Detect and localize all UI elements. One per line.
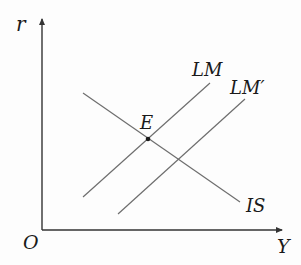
is-curve [83, 93, 240, 202]
equilibrium-point-e [146, 137, 151, 142]
lm-label: LM [191, 59, 223, 80]
x-axis-label: Y [277, 235, 292, 257]
lm-prime-label: LM′ [229, 77, 264, 98]
is-lm-diagram: r O Y LM LM′ E IS [0, 0, 301, 265]
is-label: IS [245, 195, 265, 216]
lm-prime-curve [118, 99, 245, 214]
y-axis-label: r [16, 12, 27, 36]
diagram-svg: r O Y LM LM′ E IS [0, 0, 301, 265]
point-e-label: E [139, 112, 153, 133]
origin-label: O [23, 231, 39, 253]
